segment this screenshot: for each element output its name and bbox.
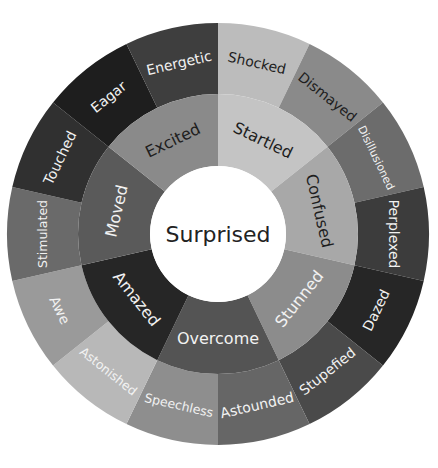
- outer-segment-perplexed: Perplexed: [354, 187, 429, 281]
- center-label: Surprised: [165, 222, 270, 247]
- outer-segment-stimulated: Stimulated: [7, 187, 82, 281]
- inner-segment-label: Overcome: [177, 329, 259, 348]
- emotion-wheel: ShockedDismayedDisillusionedPerplexedDaz…: [0, 0, 438, 468]
- outer-segment-label: Perplexed: [386, 200, 402, 269]
- emotion-wheel-svg: ShockedDismayedDisillusionedPerplexedDaz…: [0, 0, 438, 468]
- outer-segment-label: Stimulated: [35, 200, 50, 268]
- center-hub: Surprised: [150, 166, 286, 302]
